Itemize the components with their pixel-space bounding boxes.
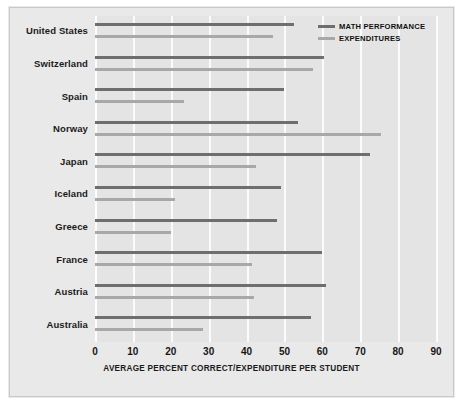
y-axis-label: United States (4, 25, 88, 36)
legend-item: EXPENDITURES (318, 33, 448, 44)
bar-row (95, 244, 436, 277)
bar-expenditures (95, 35, 273, 38)
y-axis-label: Norway (4, 123, 88, 134)
y-axis-category-labels: United StatesSwitzerlandSpainNorwayJapan… (8, 16, 92, 342)
bar-expenditures (95, 100, 184, 103)
bar-row (95, 146, 436, 179)
y-axis-label: Iceland (4, 188, 88, 199)
bar-expenditures (95, 68, 313, 71)
y-axis-label: Austria (4, 286, 88, 297)
x-axis-ticks: 0102030405060708090 (95, 342, 436, 362)
plot-area (95, 16, 436, 342)
bar-math-performance (95, 186, 281, 189)
legend-swatch-icon (318, 37, 335, 40)
bar-row (95, 309, 436, 342)
bar-math-performance (95, 251, 322, 254)
bar-math-performance (95, 121, 298, 124)
legend-item-label: MATH PERFORMANCE (339, 22, 425, 31)
y-axis-label: Greece (4, 221, 88, 232)
bar-row (95, 49, 436, 82)
x-axis-tick-label: 60 (317, 346, 328, 357)
y-axis-label: Australia (4, 319, 88, 330)
bar-math-performance (95, 88, 284, 91)
x-axis-tick-label: 50 (279, 346, 290, 357)
legend-item: MATH PERFORMANCE (318, 21, 448, 32)
bar-expenditures (95, 296, 254, 299)
x-axis-tick-label: 90 (430, 346, 441, 357)
bar-math-performance (95, 219, 277, 222)
x-axis-tick-label: 30 (203, 346, 214, 357)
bar-math-performance (95, 284, 326, 287)
bar-expenditures (95, 198, 175, 201)
bar-row (95, 179, 436, 212)
x-axis-tick-label: 20 (165, 346, 176, 357)
bar-expenditures (95, 328, 203, 331)
legend-item-label: EXPENDITURES (339, 34, 400, 43)
chart-legend: MATH PERFORMANCEEXPENDITURES (318, 21, 448, 45)
legend-swatch-icon (318, 25, 335, 28)
bar-expenditures (95, 263, 252, 266)
x-axis-tick-label: 40 (241, 346, 252, 357)
bar-rows (95, 16, 436, 342)
y-axis-label: Japan (4, 156, 88, 167)
chart-figure: United StatesSwitzerlandSpainNorwayJapan… (0, 0, 463, 408)
bar-expenditures (95, 165, 256, 168)
bar-row (95, 81, 436, 114)
bar-row (95, 114, 436, 147)
bar-math-performance (95, 316, 311, 319)
x-axis-tick-label: 80 (393, 346, 404, 357)
y-axis-label: Spain (4, 91, 88, 102)
y-axis-label: Switzerland (4, 58, 88, 69)
gridline-90 (436, 16, 438, 342)
x-axis-tick-label: 10 (127, 346, 138, 357)
x-axis-tick-label: 70 (355, 346, 366, 357)
bar-expenditures (95, 133, 381, 136)
bar-row (95, 212, 436, 245)
y-axis-label: France (4, 254, 88, 265)
bar-math-performance (95, 56, 324, 59)
bar-row (95, 277, 436, 310)
bar-expenditures (95, 231, 171, 234)
bar-math-performance (95, 23, 294, 26)
x-axis-tick-label: 0 (92, 346, 98, 357)
bar-math-performance (95, 153, 370, 156)
x-axis-title: AVERAGE PERCENT CORRECT/EXPENDITURE PER … (8, 364, 455, 373)
